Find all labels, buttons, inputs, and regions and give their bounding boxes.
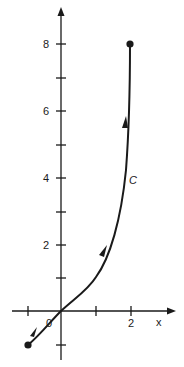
y-tick-label-6: 6 bbox=[43, 105, 49, 117]
direction-arrow-icon-3 bbox=[122, 116, 128, 128]
direction-arrow-icon-1 bbox=[30, 327, 37, 337]
curve-label: C bbox=[129, 174, 137, 186]
direction-arrow-icon-2 bbox=[99, 245, 107, 257]
y-tick-label-2: 2 bbox=[43, 239, 49, 251]
y-tick-label-8: 8 bbox=[43, 38, 49, 50]
x-tick-label-0: 0 bbox=[46, 317, 52, 329]
y-tick-label-4: 4 bbox=[43, 172, 49, 184]
x-axis-label: x bbox=[156, 316, 162, 328]
start-point-dot bbox=[24, 341, 31, 348]
end-point-dot bbox=[126, 40, 133, 47]
x-axis-arrow-icon bbox=[167, 308, 176, 315]
curve-c bbox=[28, 44, 130, 345]
x-tick-label-2: 2 bbox=[128, 317, 134, 329]
y-axis-arrow-icon bbox=[58, 7, 65, 16]
curve-diagram: 8 6 4 2 0 2 x C bbox=[0, 0, 184, 367]
